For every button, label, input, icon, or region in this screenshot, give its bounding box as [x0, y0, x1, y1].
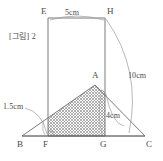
- dimension-label-left: 1.5cm: [3, 103, 23, 111]
- dimension-label-top: 5cm: [65, 9, 79, 17]
- vertex-label-E: E: [41, 7, 47, 16]
- vertex-label-C: C: [146, 140, 152, 149]
- shaded-region: [48, 85, 105, 136]
- dimension-label-inner: 4cm: [106, 112, 120, 120]
- figure-canvas: [0, 0, 163, 161]
- vertex-label-F: F: [43, 140, 48, 149]
- vertex-label-B: B: [17, 140, 23, 149]
- dimension-label-right: 10cm: [128, 72, 146, 80]
- vertex-label-A: A: [92, 71, 99, 80]
- figure-caption: [그림] 2: [9, 33, 36, 41]
- geometry-figure: [그림] 2 E H A B F G C 5cm 10cm 1.5cm 4cm: [0, 0, 163, 161]
- height-arc-F: [43, 120, 45, 135]
- vertex-label-G: G: [100, 140, 107, 149]
- vertex-label-H: H: [107, 7, 114, 16]
